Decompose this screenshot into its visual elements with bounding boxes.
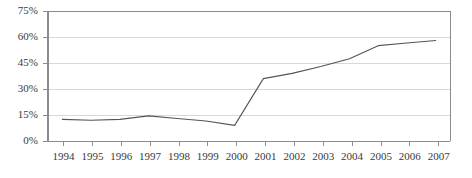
y-axis-label-30: 30% [0, 83, 38, 94]
line-chart: 75% 60% 45% 30% 15% 0% 1994 1995 1996 19… [0, 0, 472, 178]
y-axis-label-75: 75% [0, 5, 38, 16]
data-line-series-1 [62, 40, 435, 125]
gridlines [48, 37, 450, 115]
x-axis-ticks [64, 141, 439, 146]
y-axis-label-15: 15% [0, 109, 38, 120]
y-axis-label-45: 45% [0, 57, 38, 68]
y-axis-label-60: 60% [0, 31, 38, 42]
x-axis-label-2007: 2007 [422, 151, 456, 162]
y-axis-ticks [43, 11, 48, 141]
y-axis-label-0: 0% [0, 135, 38, 146]
